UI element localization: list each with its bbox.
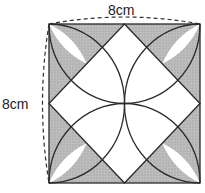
- side-length-label: 8cm: [2, 96, 28, 112]
- top-length-label: 8cm: [108, 2, 134, 18]
- figure-lines: [49, 24, 200, 183]
- top-dimension-arc: [49, 17, 200, 24]
- dimension-lines: [43, 17, 201, 183]
- side-dimension-arc: [43, 24, 50, 183]
- geometry-figure: 8cm 8cm: [0, 0, 205, 193]
